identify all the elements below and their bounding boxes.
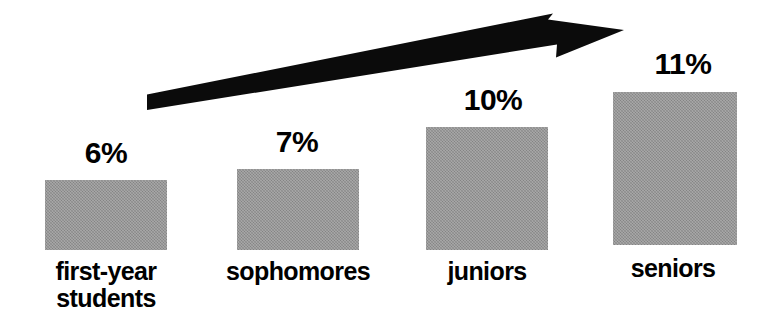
bar-sophomores xyxy=(237,169,359,250)
category-label-first-year-students: first-year students xyxy=(56,258,157,312)
bar-chart-figure: 6% 7% 10% 11% first-year students sophom… xyxy=(0,0,772,332)
category-label-seniors: seniors xyxy=(631,255,716,282)
value-label-first-year-students: 6% xyxy=(85,138,127,168)
bar-juniors xyxy=(426,127,548,250)
category-label-sophomores: sophomores xyxy=(226,258,370,285)
bar-seniors xyxy=(613,92,737,245)
arrow-shape xyxy=(147,14,624,111)
category-label-juniors: juniors xyxy=(447,258,526,285)
bar-first-year-students xyxy=(45,180,167,250)
value-label-juniors: 10% xyxy=(464,85,523,115)
value-label-sophomores: 7% xyxy=(276,127,318,157)
value-label-seniors: 11% xyxy=(655,49,712,79)
